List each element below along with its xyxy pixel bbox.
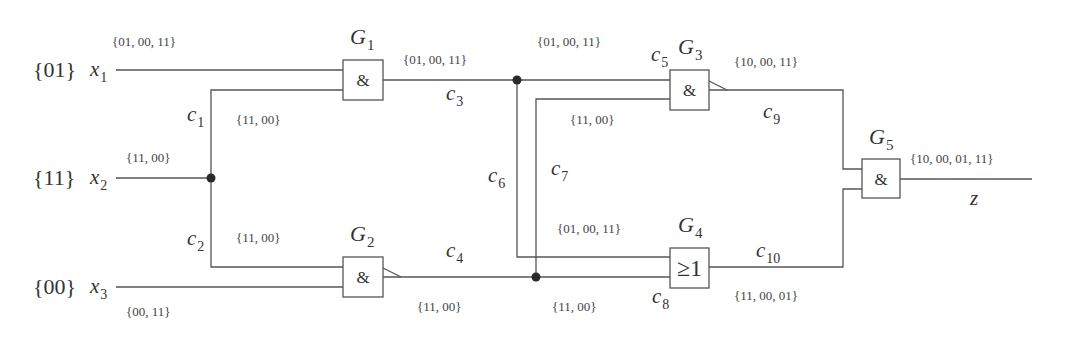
conn-c10-label: c10 [756, 238, 780, 266]
conn-c1: c1 {11, 00} [187, 102, 281, 130]
conn-c6-label: c6 [488, 163, 505, 191]
input-x1-value: {01} [33, 57, 76, 82]
conn-c9-set: {10, 00, 11} [734, 54, 798, 69]
conn-c2-set: {11, 00} [236, 230, 281, 245]
junction-dot-c4 [532, 273, 541, 282]
input-x3-set: {00, 11} [126, 304, 171, 319]
gate-g1-label: G1 [350, 24, 374, 53]
gate-g2: & G2 [343, 221, 383, 297]
input-x1: {01} x1 {01, 00, 11} [33, 34, 176, 85]
gate-g1-symbol: & [356, 71, 369, 90]
input-x3-value: {00} [33, 274, 76, 299]
conn-c10-set: {11, 00, 01} [734, 288, 798, 303]
conn-c4-set: {11, 00} [417, 299, 462, 314]
conn-c10: c10 {11, 00, 01} [734, 238, 798, 303]
input-x1-label: x1 [89, 57, 107, 85]
gate-g4-label: G4 [678, 212, 703, 241]
input-x2-value: {11} [33, 165, 75, 190]
wire-c1 [211, 90, 343, 178]
gate-g2-symbol: & [356, 268, 369, 287]
output-z-label: z [969, 186, 978, 210]
conn-c7: c7 {11, 00} [551, 112, 615, 184]
conn-c7-set: {11, 00} [570, 112, 615, 127]
output-z-set: {10, 00, 01, 11} [910, 151, 994, 166]
conn-c7-label: c7 [551, 156, 568, 184]
conn-c8-set: {11, 00} [552, 299, 597, 314]
gate-g4: ≥1 G4 [670, 212, 709, 288]
conn-c2-label: c2 [187, 226, 204, 254]
conn-c2: c2 {11, 00} [187, 226, 281, 254]
gate-g5-label: G5 [869, 124, 893, 153]
wire-c4-stub [383, 268, 401, 277]
gate-g5-symbol: & [874, 170, 887, 189]
conn-c4: c4 {11, 00} [417, 238, 463, 314]
input-x3: {00} x3 {00, 11} [33, 274, 171, 319]
input-x2-set: {11, 00} [126, 150, 171, 165]
wire-c10 [709, 189, 862, 267]
input-x3-label: x3 [89, 274, 107, 302]
wire-c2 [211, 178, 343, 267]
junction-dot-x2 [207, 174, 216, 183]
input-x1-set: {01, 00, 11} [112, 34, 176, 49]
conn-c1-label: c1 [187, 102, 204, 130]
wire-c9 [709, 90, 862, 169]
conn-c5-label: c5 [651, 42, 668, 70]
conn-c3-label: c3 [446, 81, 463, 109]
gate-g1: & G1 [343, 24, 383, 100]
gate-g5: & G5 [862, 124, 900, 198]
input-x2: {11} x2 {11, 00} [33, 150, 171, 193]
conn-c5: {01, 00, 11} c5 [537, 34, 668, 70]
conn-c5-set: {01, 00, 11} [537, 34, 601, 49]
output-z: {10, 00, 01, 11} z [910, 151, 994, 210]
gate-g3-symbol: & [683, 81, 696, 100]
input-x2-label: x2 [89, 165, 107, 193]
gate-g2-label: G2 [350, 221, 374, 250]
conn-c3-set: {01, 00, 11} [403, 52, 467, 67]
junction-dot-c3 [513, 76, 522, 85]
conn-c6-set: {01, 00, 11} [557, 221, 621, 236]
conn-c1-set: {11, 00} [236, 112, 281, 127]
conn-c8-label: c8 [652, 284, 669, 312]
wire-c9-stub [709, 81, 727, 90]
gate-g4-symbol: ≥1 [677, 255, 702, 281]
gate-g3: & G3 [670, 34, 709, 110]
conn-c4-label: c4 [446, 238, 463, 266]
conn-c8: c8 {11, 00} [552, 284, 669, 314]
circuit-diagram: & G1 & G2 & G3 ≥1 G4 & G5 {01} x1 {01, 0… [0, 0, 1070, 337]
gate-g3-label: G3 [678, 34, 702, 63]
conn-c9-label: c9 [763, 99, 780, 127]
